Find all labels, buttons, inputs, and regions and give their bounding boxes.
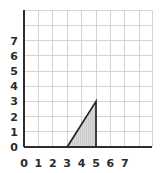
x-axis-tick-labels: 0 1 2 3 4 5 6 7 (20, 157, 128, 170)
y-tick-label: 7 (10, 35, 18, 48)
x-tick-label: 0 (20, 157, 28, 170)
y-tick-label: 1 (10, 126, 18, 139)
x-tick-label: 1 (35, 157, 43, 170)
x-tick-label: 2 (49, 157, 57, 170)
x-tick-label: 6 (107, 157, 115, 170)
y-tick-label: 6 (10, 50, 18, 63)
plot-canvas: 0 1 2 3 4 5 6 7 0 1 2 3 4 5 6 7 (0, 0, 163, 173)
x-tick-label: 7 (121, 157, 129, 170)
y-tick-label: 3 (10, 95, 18, 108)
x-tick-label: 5 (92, 157, 100, 170)
x-tick-label: 3 (63, 157, 71, 170)
y-tick-label: 4 (10, 80, 18, 93)
y-axis-tick-labels: 0 1 2 3 4 5 6 7 (10, 35, 18, 154)
y-tick-label: 0 (10, 141, 18, 154)
coordinate-grid-figure: 0 1 2 3 4 5 6 7 0 1 2 3 4 5 6 7 (0, 0, 163, 173)
y-tick-label: 2 (10, 111, 18, 124)
x-tick-label: 4 (78, 157, 86, 170)
y-tick-label: 5 (10, 65, 18, 78)
